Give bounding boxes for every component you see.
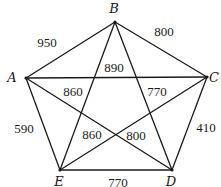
vertex-a — [24, 76, 27, 79]
edge-weight-labels: 950800890860770590860800410770 — [14, 24, 216, 187]
edge-weight-c-e: 860 — [82, 127, 102, 142]
edge-weight-b-c: 800 — [154, 24, 174, 39]
edge-weight-b-e: 860 — [63, 84, 83, 99]
edge-weight-c-d: 410 — [196, 120, 216, 135]
complete-graph-diagram: 950800890860770590860800410770 ABCDE — [0, 0, 221, 187]
vertex-label-d: D — [165, 174, 177, 187]
edge-weight-a-c: 890 — [104, 60, 124, 75]
edge-weight-a-e: 590 — [14, 121, 34, 136]
edge-a-c — [26, 77, 207, 78]
vertex-e — [58, 168, 61, 171]
vertex-label-e: E — [53, 174, 64, 187]
edge-weight-b-d: 770 — [147, 84, 167, 99]
vertex-label-a: A — [6, 70, 16, 85]
edge-a-b — [26, 22, 115, 78]
edge-weight-a-b: 950 — [37, 35, 57, 50]
vertex-b — [113, 20, 116, 23]
vertex-d — [170, 168, 173, 171]
edge-weight-e-d: 770 — [108, 175, 128, 187]
vertex-label-b: B — [108, 1, 119, 16]
vertex-label-c: C — [209, 70, 219, 85]
edge-weight-a-d: 800 — [126, 128, 146, 143]
